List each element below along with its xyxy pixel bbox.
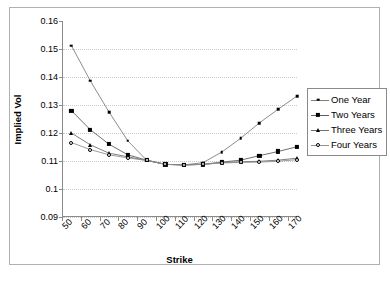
y-axis-tick-label: 0.11 xyxy=(41,156,58,166)
legend-item[interactable]: Four Years xyxy=(311,137,382,152)
y-axis-tick-labels: 0.160.150.140.130.120.110.10.09 xyxy=(0,21,58,217)
legend-item[interactable]: Three Years xyxy=(311,122,382,137)
y-axis-tick-label: 0.14 xyxy=(40,72,58,82)
y-axis-tick-label: 0.13 xyxy=(40,100,58,110)
horizontal-gridline xyxy=(63,189,297,190)
y-axis-tick-label: 0.15 xyxy=(40,44,58,54)
legend-item[interactable]: One Year xyxy=(311,92,382,107)
legend-marker-icon xyxy=(311,110,329,120)
legend-marker-icon xyxy=(311,140,329,150)
horizontal-gridline xyxy=(63,133,297,134)
y-axis-tick-label: 0.12 xyxy=(40,128,58,138)
y-axis-tick-mark xyxy=(59,105,63,106)
horizontal-gridline xyxy=(63,105,297,106)
y-axis-tick-mark xyxy=(59,21,63,22)
y-axis-tick-mark xyxy=(59,77,63,78)
plot-area xyxy=(62,21,297,217)
legend-label: Three Years xyxy=(331,124,382,135)
horizontal-gridline xyxy=(63,77,297,78)
legend-marker-icon xyxy=(311,95,329,105)
chart-figure: Implied Vol 0.160.150.140.130.120.110.10… xyxy=(0,0,390,281)
y-axis-tick-label: 0.09 xyxy=(40,212,58,222)
y-axis-tick-mark xyxy=(59,133,63,134)
legend-label: Two Years xyxy=(331,109,375,120)
horizontal-gridline xyxy=(63,161,297,162)
y-axis-tick-label: 0.16 xyxy=(40,16,58,26)
chart-legend: One YearTwo YearsThree YearsFour Years xyxy=(307,88,387,156)
y-axis-tick-mark xyxy=(59,189,63,190)
x-axis-tick-labels: 5060708090100110120130140150160170 xyxy=(62,222,297,256)
y-axis-tick-label: 0.1 xyxy=(45,184,58,194)
legend-label: One Year xyxy=(331,94,371,105)
y-axis-tick-mark xyxy=(59,161,63,162)
legend-marker-icon xyxy=(311,125,329,135)
legend-item[interactable]: Two Years xyxy=(311,107,382,122)
legend-label: Four Years xyxy=(331,139,377,150)
horizontal-gridline xyxy=(63,49,297,50)
y-axis-tick-mark xyxy=(59,49,63,50)
x-axis-title: Strike xyxy=(62,254,297,265)
